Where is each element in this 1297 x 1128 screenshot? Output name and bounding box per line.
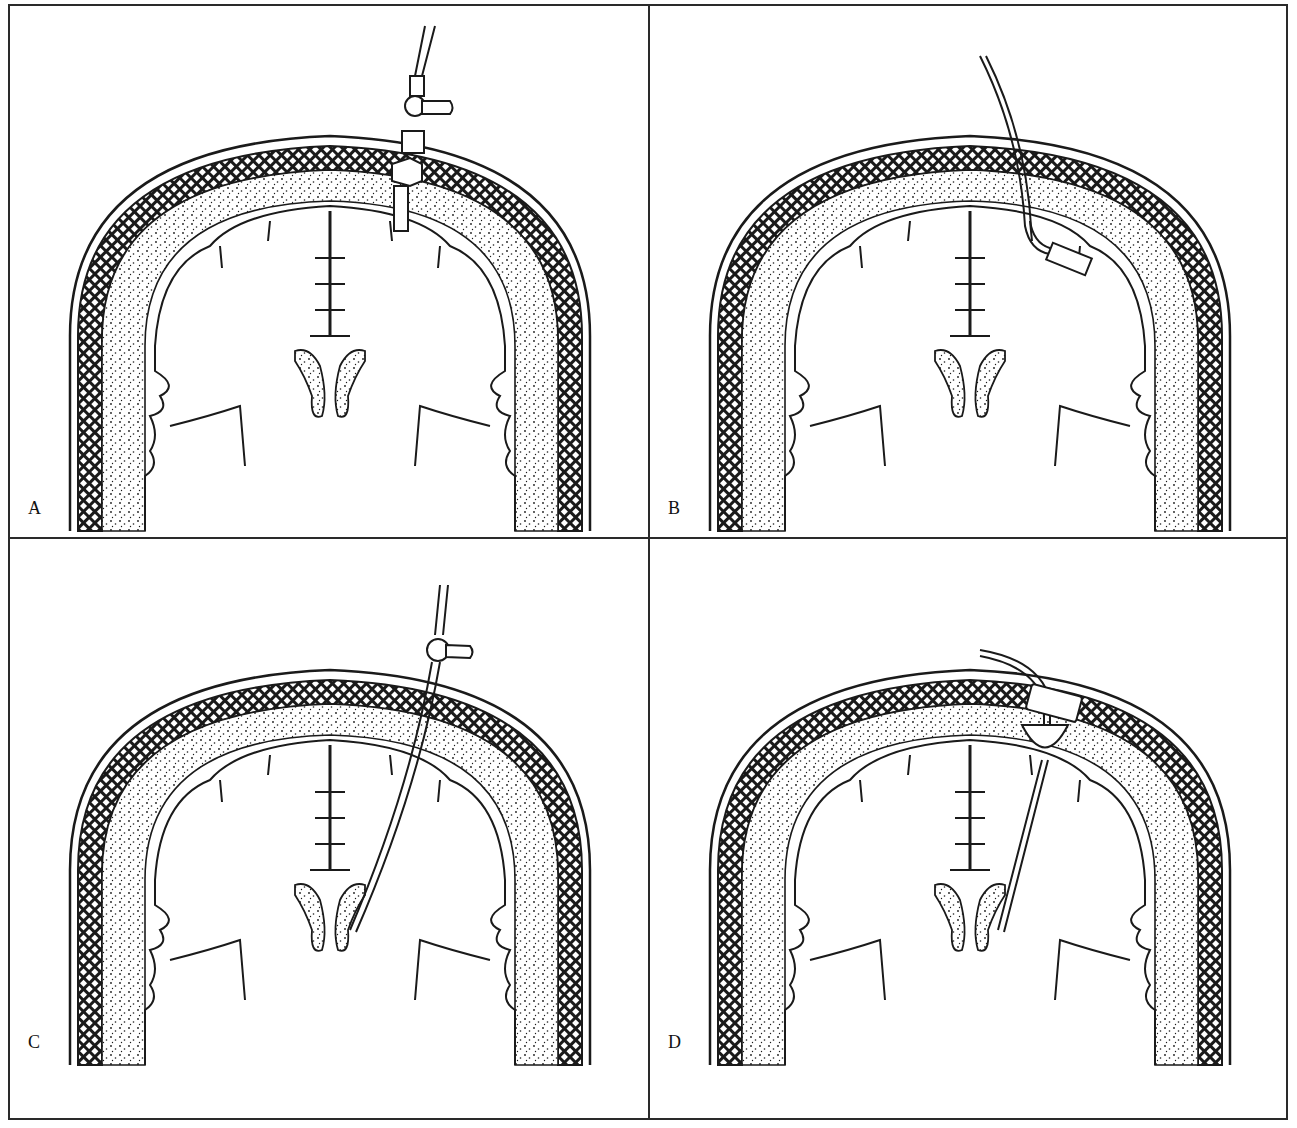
panel-label: C <box>28 1032 40 1053</box>
panel-c: C <box>10 540 650 1073</box>
panel-a: A <box>10 6 650 539</box>
panel-b: B <box>650 6 1290 539</box>
brain-section-epidural-illustration <box>650 6 1290 539</box>
panel-d: D <box>650 540 1290 1073</box>
brain-section-ventricular-catheter-illustration <box>10 540 650 1073</box>
panel-label: A <box>28 498 41 519</box>
panel-label: D <box>668 1032 681 1053</box>
brain-section-bolt-illustration <box>10 6 650 539</box>
panel-label: B <box>668 498 680 519</box>
brain-section-reservoir-catheter-illustration <box>650 540 1290 1073</box>
